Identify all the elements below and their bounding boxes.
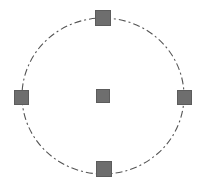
node-square-left[interactable] bbox=[14, 90, 29, 105]
node-square-top[interactable] bbox=[95, 10, 111, 26]
diagram-canvas bbox=[0, 0, 207, 191]
node-square-right[interactable] bbox=[177, 90, 192, 105]
node-square-bottom[interactable] bbox=[96, 161, 112, 177]
node-square-center[interactable] bbox=[96, 89, 110, 103]
